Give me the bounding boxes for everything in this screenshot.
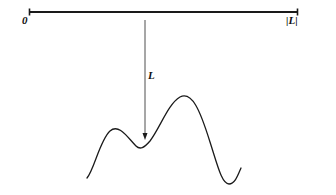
wavy-function-curve — [87, 96, 241, 184]
diagram-svg — [0, 0, 336, 195]
interval-left-label: 0 — [22, 15, 28, 26]
interval-right-label: |L| — [286, 15, 298, 26]
arrow-label: L — [148, 70, 155, 81]
arrow-head — [143, 133, 148, 140]
figure-canvas: 0 |L| L — [0, 0, 336, 195]
arrow-group — [143, 20, 148, 140]
interval-line-group — [29, 9, 298, 16]
